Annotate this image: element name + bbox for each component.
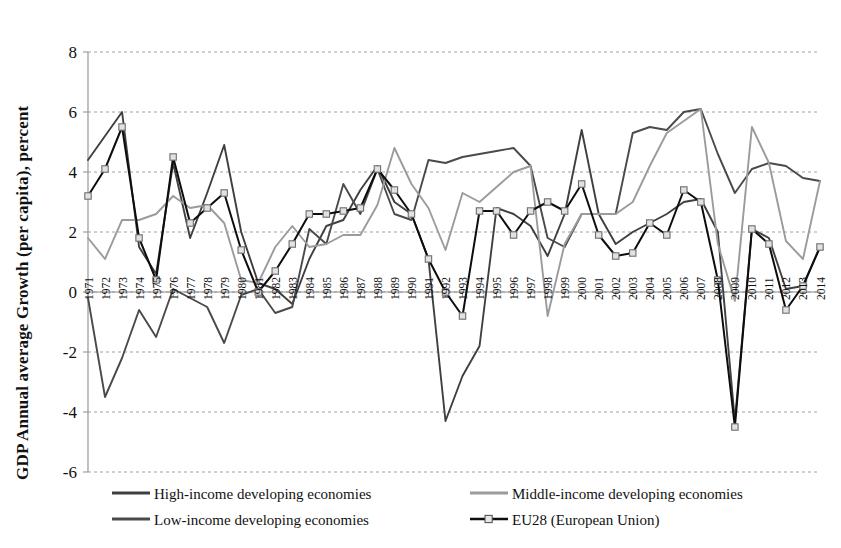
x-tick-label-1986: 1986 bbox=[338, 277, 350, 300]
marker-point bbox=[459, 313, 465, 319]
x-tick-label-1994: 1994 bbox=[474, 277, 486, 300]
marker-point bbox=[647, 220, 653, 226]
marker-point bbox=[510, 232, 516, 238]
x-tick-label-2012: 2012 bbox=[780, 277, 792, 300]
legend-label: Low-income developing economies bbox=[154, 512, 369, 528]
series-line-1 bbox=[88, 109, 820, 397]
x-tick-label-1998: 1998 bbox=[542, 277, 554, 300]
x-tick-label-1980: 1980 bbox=[236, 277, 248, 300]
x-tick-label-2005: 2005 bbox=[661, 277, 673, 300]
x-tick-label-1991: 1991 bbox=[423, 277, 435, 300]
marker-point bbox=[340, 208, 346, 214]
y-axis-title: GDP Annual average Growth (per capita), … bbox=[13, 105, 32, 480]
x-tick-label-2007: 2007 bbox=[695, 277, 707, 300]
x-tick-label-1981: 1981 bbox=[253, 277, 265, 300]
y-axis bbox=[83, 52, 88, 472]
marker-point bbox=[425, 256, 431, 262]
x-tick-label-1975: 1975 bbox=[151, 277, 163, 300]
series-line-2 bbox=[88, 109, 820, 316]
x-tick-label-1976: 1976 bbox=[168, 277, 180, 300]
y-tick-labels: 86420-2-4-6 bbox=[63, 43, 78, 482]
marker-point bbox=[102, 166, 108, 172]
y-tick-label--6: -6 bbox=[63, 463, 77, 482]
x-tick-label-1978: 1978 bbox=[202, 277, 214, 300]
y-tick-label-2: 2 bbox=[69, 223, 78, 242]
marker-point bbox=[357, 205, 363, 211]
legend-item[interactable]: Low-income developing economies bbox=[112, 512, 369, 528]
x-tick-label-1977: 1977 bbox=[185, 277, 197, 300]
series-line-0 bbox=[88, 112, 820, 421]
x-tick-label-1999: 1999 bbox=[559, 277, 571, 300]
x-tick-label-2008: 2008 bbox=[712, 277, 724, 300]
x-tick-label-2003: 2003 bbox=[627, 277, 639, 300]
x-tick-label-2011: 2011 bbox=[763, 277, 775, 300]
x-tick-label-1971: 1971 bbox=[83, 277, 95, 300]
marker-point bbox=[323, 211, 329, 217]
y-tick-label--4: -4 bbox=[63, 403, 78, 422]
marker-point bbox=[391, 187, 397, 193]
legend: High-income developing economiesMiddle-i… bbox=[112, 486, 743, 529]
x-tick-label-2009: 2009 bbox=[729, 277, 741, 300]
marker-point bbox=[238, 247, 244, 253]
marker-point bbox=[187, 220, 193, 226]
marker-point bbox=[664, 232, 670, 238]
x-tick-label-1972: 1972 bbox=[100, 277, 112, 300]
legend-label: High-income developing economies bbox=[154, 486, 372, 502]
marker-point bbox=[561, 208, 567, 214]
marker-point bbox=[527, 208, 533, 214]
x-tick-label-2006: 2006 bbox=[678, 277, 690, 300]
marker-point bbox=[204, 205, 210, 211]
marker-point bbox=[783, 307, 789, 313]
gdp-growth-line-chart: 86420-2-4-6 1971197219731974197519761977… bbox=[0, 0, 841, 548]
x-tick-label-1995: 1995 bbox=[491, 277, 503, 300]
x-tick-label-1990: 1990 bbox=[406, 277, 418, 300]
marker-point bbox=[630, 250, 636, 256]
x-tick-label-1979: 1979 bbox=[219, 277, 231, 300]
series-lines bbox=[88, 109, 820, 427]
marker-point bbox=[595, 232, 601, 238]
marker-point bbox=[749, 226, 755, 232]
marker-point bbox=[544, 199, 550, 205]
legend-item[interactable]: EU28 (European Union) bbox=[470, 512, 659, 529]
x-tick-label-1984: 1984 bbox=[304, 277, 316, 300]
x-tick-label-1987: 1987 bbox=[355, 277, 367, 300]
gridlines bbox=[88, 52, 820, 472]
legend-swatch-marker bbox=[485, 515, 492, 522]
marker-point bbox=[408, 211, 414, 217]
x-tick-label-2004: 2004 bbox=[644, 277, 656, 300]
series-markers bbox=[85, 124, 823, 430]
y-tick-label-4: 4 bbox=[69, 163, 78, 182]
x-tick-label-1982: 1982 bbox=[270, 277, 282, 300]
x-tick-label-1993: 1993 bbox=[457, 277, 469, 300]
marker-point bbox=[272, 268, 278, 274]
marker-point bbox=[493, 208, 499, 214]
marker-point bbox=[732, 424, 738, 430]
legend-item[interactable]: Middle-income developing economies bbox=[470, 486, 743, 502]
x-tick-label-1996: 1996 bbox=[508, 277, 520, 300]
marker-point bbox=[817, 244, 823, 250]
marker-point bbox=[766, 241, 772, 247]
x-tick-marks bbox=[88, 292, 820, 297]
marker-point bbox=[578, 181, 584, 187]
marker-point bbox=[170, 154, 176, 160]
marker-point bbox=[698, 199, 704, 205]
x-tick-label-1997: 1997 bbox=[525, 277, 537, 300]
legend-item[interactable]: High-income developing economies bbox=[112, 486, 372, 502]
x-tick-label-1988: 1988 bbox=[372, 277, 384, 300]
x-tick-label-1974: 1974 bbox=[134, 277, 146, 300]
legend-label: Middle-income developing economies bbox=[512, 486, 743, 502]
marker-point bbox=[306, 211, 312, 217]
x-tick-label-1985: 1985 bbox=[321, 277, 333, 300]
x-tick-labels: 1971197219731974197519761977197819791980… bbox=[83, 277, 827, 300]
marker-point bbox=[374, 166, 380, 172]
x-tick-label-1983: 1983 bbox=[287, 277, 299, 300]
x-tick-label-1992: 1992 bbox=[440, 277, 452, 300]
legend-label: EU28 (European Union) bbox=[512, 512, 659, 529]
x-tick-label-2002: 2002 bbox=[610, 277, 622, 300]
y-tick-label-6: 6 bbox=[69, 103, 78, 122]
x-tick-label-2000: 2000 bbox=[576, 277, 588, 300]
marker-point bbox=[119, 124, 125, 130]
x-tick-label-1989: 1989 bbox=[389, 277, 401, 300]
marker-point bbox=[681, 187, 687, 193]
y-tick-label-8: 8 bbox=[69, 43, 78, 62]
